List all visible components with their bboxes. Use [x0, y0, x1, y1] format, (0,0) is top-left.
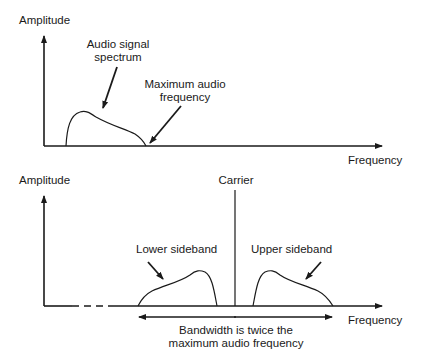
max-freq-label-line1: Maximum audio: [144, 78, 225, 91]
upper-sideband-arrow: [306, 262, 321, 279]
max-freq-arrow: [150, 106, 181, 143]
spectrum-arrow: [103, 67, 117, 108]
bottom-y-axis-label: Amplitude: [19, 174, 70, 187]
carrier-label: Carrier: [218, 174, 253, 187]
audio-spectrum-curve: [66, 111, 146, 146]
spectrum-label-line1: Audio signal: [87, 38, 150, 51]
top-x-axis-label: Frequency: [348, 154, 402, 167]
spectrum-label-line2: spectrum: [94, 51, 141, 64]
lower-sideband-arrow: [148, 262, 163, 279]
bottom-x-axis-label: Frequency: [348, 314, 402, 327]
bandwidth-label-line2: maximum audio frequency: [169, 337, 304, 350]
max-freq-label-line2: frequency: [160, 91, 211, 104]
lower-sideband-label: Lower sideband: [136, 243, 217, 256]
upper-sideband-curve: [253, 271, 333, 306]
bandwidth-label-line1: Bandwidth is twice the: [179, 324, 293, 337]
upper-sideband-label: Upper sideband: [251, 243, 332, 256]
top-y-axis-label: Amplitude: [19, 14, 70, 27]
lower-sideband-curve: [138, 271, 217, 306]
